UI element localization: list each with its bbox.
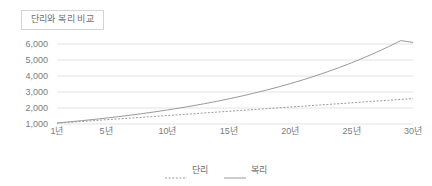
chart-container: 단리와 복리 비교 1,0002,0003,0004,0005,0006,000… [0,0,432,186]
y-axis-tick-label: 5,000 [25,55,48,65]
x-axis-tick-label: 25년 [343,126,361,137]
plot-area [57,44,413,124]
x-axis-tick-label: 15년 [220,126,238,137]
solid-line-icon [224,167,246,173]
legend-item-label: 단리 [192,165,208,176]
dotted-line-icon [165,167,187,173]
plot-svg [57,44,413,124]
series-line-simple [57,99,413,124]
x-axis-tick-label: 20년 [281,126,299,137]
legend-item-label: 복리 [251,165,267,176]
y-axis-tick-label: 4,000 [25,71,48,81]
legend-item[interactable]: 복리 [224,165,267,176]
y-axis-tick-label: 1,000 [25,119,48,129]
gridlines [57,44,413,124]
x-axis: 1년5년10년15년20년25년30년 [57,126,413,142]
series-line-compound [57,41,413,123]
x-axis-tick-label: 10년 [158,126,176,137]
y-axis-tick-label: 6,000 [25,39,48,49]
y-axis-tick-label: 3,000 [25,87,48,97]
chart-title: 단리와 복리 비교 [21,10,104,30]
x-axis-tick-label: 5년 [100,126,113,137]
x-axis-tick-label: 30년 [404,126,422,137]
y-axis-tick-label: 2,000 [25,103,48,113]
chart-title-text: 단리와 복리 비교 [31,14,94,24]
y-axis: 1,0002,0003,0004,0005,0006,000 [0,38,52,130]
chart-legend: 단리복리 [0,162,432,178]
series-lines [57,41,413,124]
x-axis-tick-label: 1년 [50,126,63,137]
legend-item[interactable]: 단리 [165,165,208,176]
